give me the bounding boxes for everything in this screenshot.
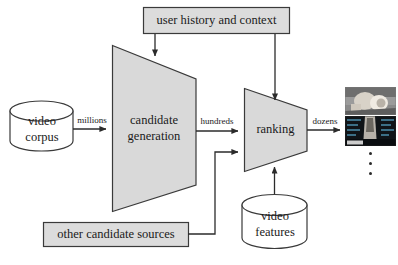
output-thumbnail-1 xyxy=(345,87,396,115)
ellipsis-dot-2 xyxy=(369,162,372,165)
output-thumbnail-2 xyxy=(345,116,396,146)
node-candidate-generation xyxy=(113,46,197,212)
node-video-features xyxy=(242,195,307,249)
node-other-candidate-sources xyxy=(44,223,189,247)
ellipsis-dot-3 xyxy=(369,172,372,175)
diagram-canvas: user history and context video corpus ca… xyxy=(0,0,398,265)
node-video-corpus xyxy=(10,101,73,151)
node-user-history-and-context xyxy=(144,8,290,34)
node-ranking xyxy=(245,89,308,172)
diagram-svg xyxy=(0,0,398,265)
ellipsis-dot-1 xyxy=(369,152,372,155)
